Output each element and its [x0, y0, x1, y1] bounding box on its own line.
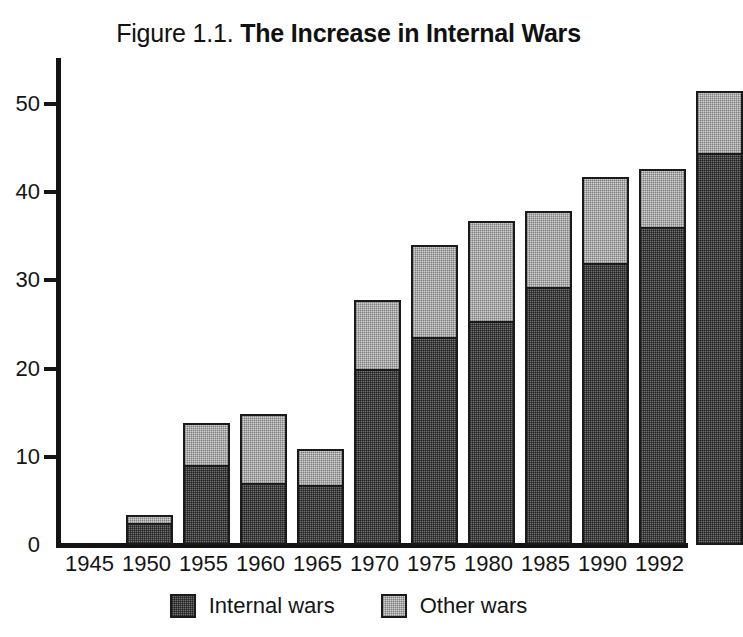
bar-segment-other-wars[interactable] [525, 211, 572, 289]
bar-group[interactable] [468, 219, 515, 545]
chart-title-prefix: Figure 1.1. [116, 19, 233, 47]
bar-segment-other-wars[interactable] [582, 177, 629, 265]
y-axis-tick-label: 0 [0, 534, 40, 556]
bar-segment-internal-wars[interactable] [297, 485, 344, 545]
y-axis-tick-label: 20 [0, 358, 40, 380]
bar-segment-other-wars[interactable] [411, 245, 458, 339]
bar-group[interactable] [696, 89, 743, 545]
y-axis-tick [44, 190, 58, 194]
bar-group[interactable] [126, 513, 173, 545]
y-axis-tick-label: 50 [0, 93, 40, 115]
plot-area [60, 60, 688, 545]
legend-label: Other wars [420, 594, 528, 618]
bar-segment-other-wars[interactable] [468, 221, 515, 323]
bar-group[interactable] [354, 298, 401, 545]
bar-segment-internal-wars[interactable] [354, 369, 401, 545]
bar-segment-internal-wars[interactable] [240, 483, 287, 545]
y-axis-tick-label: 30 [0, 269, 40, 291]
bar-segment-internal-wars[interactable] [639, 227, 686, 545]
bar-segment-other-wars[interactable] [696, 91, 743, 154]
bar-segment-other-wars[interactable] [240, 414, 287, 485]
chart-legend: Internal warsOther wars [0, 594, 697, 618]
legend-swatch-internal-wars [170, 594, 196, 618]
bar-segment-internal-wars[interactable] [126, 523, 173, 545]
bar-segment-other-wars[interactable] [354, 300, 401, 371]
bar-group[interactable] [582, 175, 629, 545]
y-axis-tick [44, 367, 58, 371]
bar-group[interactable] [639, 167, 686, 545]
legend-item[interactable]: Internal wars [170, 594, 335, 618]
bar-group[interactable] [411, 243, 458, 545]
y-axis-tick [44, 102, 58, 106]
bar-segment-other-wars[interactable] [639, 169, 686, 229]
bar-segment-internal-wars[interactable] [696, 153, 743, 545]
bar-segment-internal-wars[interactable] [411, 337, 458, 545]
bar-group[interactable] [240, 412, 287, 545]
y-axis-tick-label: 40 [0, 181, 40, 203]
bar-segment-internal-wars[interactable] [582, 263, 629, 545]
bar-segment-internal-wars[interactable] [468, 321, 515, 545]
y-axis-tick-label: 10 [0, 446, 40, 468]
bar-segment-other-wars[interactable] [183, 423, 230, 467]
legend-swatch-other-wars [381, 594, 407, 618]
bar-segment-internal-wars[interactable] [525, 287, 572, 545]
legend-item[interactable]: Other wars [381, 594, 528, 618]
chart-title-main: The Increase in Internal Wars [240, 19, 581, 47]
bar-segment-other-wars[interactable] [297, 449, 344, 487]
legend-label: Internal wars [209, 594, 335, 618]
chart-title: Figure 1.1. The Increase in Internal War… [0, 18, 697, 48]
y-axis-tick [44, 278, 58, 282]
x-axis-tick-label: 1992 [620, 552, 700, 576]
bar-group[interactable] [525, 209, 572, 545]
bar-group[interactable] [183, 421, 230, 545]
bar-segment-other-wars[interactable] [126, 515, 173, 525]
bar-segment-internal-wars[interactable] [183, 465, 230, 545]
y-axis-tick [44, 455, 58, 459]
bar-group[interactable] [297, 447, 344, 545]
